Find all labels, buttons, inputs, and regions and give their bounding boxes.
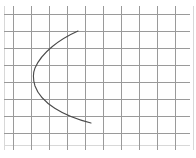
plot-background <box>0 0 196 158</box>
figure-root <box>0 0 196 158</box>
graph-paper-plot <box>0 0 196 158</box>
